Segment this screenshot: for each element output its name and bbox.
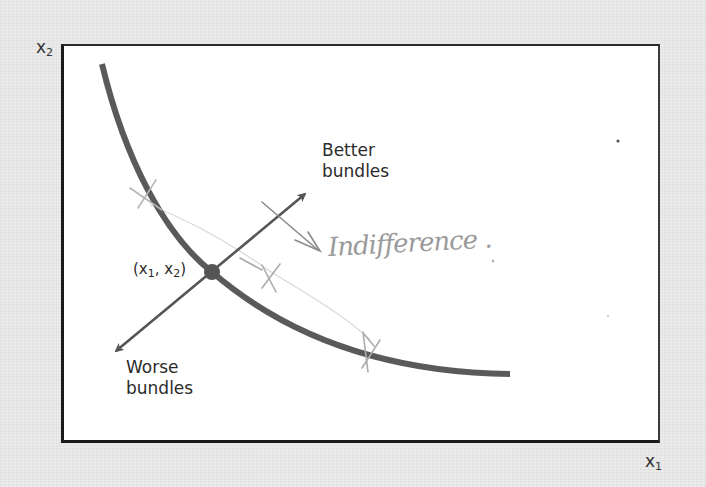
x-axis-label-base: x	[645, 451, 655, 471]
x-axis-label-sub: 1	[655, 460, 662, 473]
better-label-line1: Better	[322, 140, 389, 161]
worse-label-line1: Worse	[126, 357, 193, 378]
point-label-close: )	[180, 260, 186, 278]
better-bundles-label: Better bundles	[322, 140, 389, 182]
better-label-line2: bundles	[322, 161, 389, 182]
point-label-sub1: 1	[148, 267, 155, 280]
y-axis-label-base: x	[36, 37, 46, 57]
stray-dot-1	[616, 139, 619, 142]
worse-label-line2: bundles	[126, 378, 193, 399]
bundle-point	[204, 264, 220, 280]
y-axis-label-sub: 2	[46, 46, 53, 59]
indifference-curve	[102, 64, 510, 374]
bundle-point-label: (x1, x2)	[133, 259, 186, 284]
x-axis-label: x1	[645, 452, 662, 476]
point-label-open: (x	[133, 260, 148, 278]
worse-bundles-label: Worse bundles	[126, 357, 193, 399]
point-label-mid: , x	[155, 260, 173, 278]
stray-dot-3	[492, 260, 494, 262]
y-axis-label: x2	[36, 38, 53, 62]
diagram-canvas: x2 x1 (x1, x2) Better bundles Worse bund…	[0, 0, 706, 487]
pencil-mark-x-3	[362, 332, 380, 372]
pencil-arrow	[262, 202, 320, 251]
stray-dot-2	[607, 315, 609, 317]
pencil-mark-x-2	[240, 258, 280, 292]
